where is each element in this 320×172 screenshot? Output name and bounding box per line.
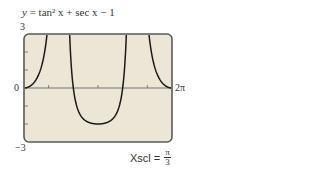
xscl-label: Xscl = π 3 [130, 148, 171, 167]
xscl-denominator: 3 [165, 158, 170, 167]
xscl-fraction: π 3 [164, 148, 171, 167]
xscl-text: Xscl = [130, 152, 160, 164]
